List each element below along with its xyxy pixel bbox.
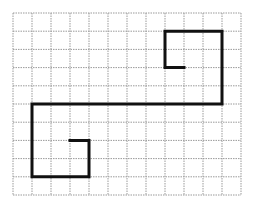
grid-diagram: [0, 0, 253, 203]
